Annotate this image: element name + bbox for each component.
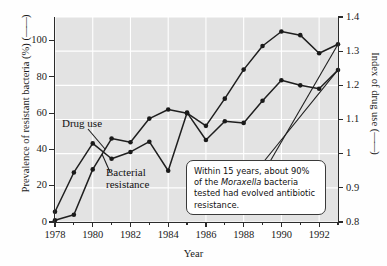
x-axis-tick-major: [319, 222, 320, 227]
series-label-bacterial-line2: resistance: [106, 179, 149, 191]
x-axis-tick-major: [130, 222, 131, 227]
bottom-axis-line: [54, 222, 339, 223]
right-axis-title-suffix: ): [370, 151, 381, 155]
x-axis-tick-major: [168, 222, 169, 227]
right-axis-tick: [338, 51, 343, 52]
x-axis-tick-minor: [111, 222, 112, 225]
series-label-bacterial-line1: Bacterial: [106, 167, 149, 179]
right-axis-tick: [338, 221, 343, 222]
right-axis-title-text: Index of drug use (: [370, 52, 381, 132]
x-axis-tick-major: [92, 222, 93, 227]
series-label-bacterial-resistance: Bacterial resistance: [106, 167, 149, 190]
x-axis-tick-minor: [73, 222, 74, 225]
left-axis-line-glyph: ——: [20, 18, 31, 37]
x-axis-title: Year: [0, 248, 387, 259]
right-axis-line-glyph: ——: [370, 132, 381, 151]
left-axis-title: Prevalence of resistant bacteria (%) (——…: [20, 11, 31, 197]
left-axis-tick: [49, 149, 54, 150]
x-axis-tick-major: [281, 222, 282, 227]
left-axis-tick: [49, 185, 54, 186]
chart-figure: 020406080100 0.80.911.11.21.31.4 1978198…: [0, 0, 387, 266]
right-axis-tick-label: 0.8: [346, 217, 376, 228]
x-axis-tick-major: [205, 222, 206, 227]
x-axis-tick-minor: [224, 222, 225, 225]
right-axis-tick: [338, 16, 343, 17]
right-axis-tick: [338, 187, 343, 188]
x-axis-tick-label: 1992: [297, 230, 341, 241]
callout-line-3: tested had evolved: [194, 188, 274, 198]
callout-species-name: Moraxella: [221, 177, 261, 187]
left-axis-tick: [49, 113, 54, 114]
left-axis-title-text: Prevalence of resistant bacteria (%) (: [20, 37, 31, 192]
series-label-drug-use: Drug use: [62, 118, 102, 130]
left-axis-line: [54, 17, 55, 223]
callout-line-2-post: bacteria: [261, 177, 298, 187]
callout-line-2-pre: of the: [194, 177, 221, 187]
x-axis-tick-minor: [262, 222, 263, 225]
x-axis-tick-major: [54, 222, 55, 227]
left-axis-tick: [49, 76, 54, 77]
callout-line-1: Within 15 years, about 90%: [194, 166, 309, 176]
left-axis-tick: [49, 221, 54, 222]
right-axis-title: Index of drug use (——): [370, 11, 381, 197]
left-axis-tick: [49, 40, 54, 41]
callout-annotation: Within 15 years, about 90% of the Moraxe…: [186, 160, 326, 215]
left-axis-title-suffix: ): [20, 15, 31, 19]
x-axis-tick-minor: [186, 222, 187, 225]
right-axis-tick: [338, 85, 343, 86]
x-axis-tick-minor: [300, 222, 301, 225]
x-axis-tick-minor: [149, 222, 150, 225]
x-axis-tick-minor: [337, 222, 338, 225]
x-axis-tick-major: [243, 222, 244, 227]
right-axis-tick: [338, 119, 343, 120]
right-axis-tick: [338, 153, 343, 154]
left-axis-tick-label: 0: [10, 217, 47, 228]
